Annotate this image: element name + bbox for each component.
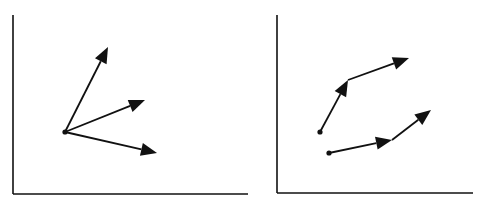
arrow-shaft — [65, 106, 130, 132]
arrowhead-icon — [128, 100, 145, 112]
arrowhead-icon — [140, 143, 157, 156]
arrow-shaft — [320, 94, 340, 132]
arrowhead-icon — [375, 137, 392, 150]
arrow-shaft — [348, 63, 394, 80]
arrowhead-icon — [95, 47, 108, 64]
arrowhead-icon — [414, 110, 431, 125]
start-point — [317, 129, 322, 134]
arrow-shaft — [65, 61, 101, 132]
arrowhead-icon — [335, 80, 348, 97]
arrow-shaft — [65, 132, 141, 149]
arrow-shaft — [329, 143, 376, 153]
vector-diagram — [0, 0, 479, 211]
left-panel — [13, 15, 248, 194]
arrowhead-icon — [392, 57, 409, 69]
start-point — [62, 129, 67, 134]
arrow-shaft — [392, 120, 418, 140]
right-panel — [277, 15, 473, 193]
start-point — [326, 150, 331, 155]
